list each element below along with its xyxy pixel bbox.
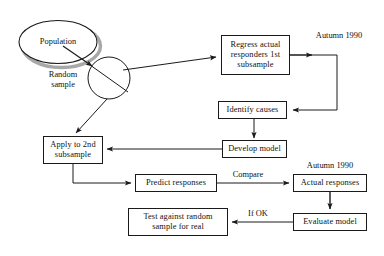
annotation-if-ok: If OK <box>241 209 275 219</box>
annotation-autumn-1990-middle: Autumn 1990 <box>297 161 363 171</box>
node-identify-causes[interactable]: Identify causes <box>218 101 287 119</box>
node-apply-to-2nd-subsample[interactable]: Apply to 2nd subsample <box>43 136 103 164</box>
edge-regress-to-identify <box>290 55 337 110</box>
edge-apply-to-predict <box>73 164 131 183</box>
flowchart-canvas: Population Random sample Regress actual … <box>0 0 384 256</box>
node-actual-responses[interactable]: Actual responses <box>293 174 367 192</box>
edge-circle-to-regress <box>123 57 216 70</box>
node-evaluate-model[interactable]: Evaluate model <box>293 213 367 231</box>
annotation-compare: Compare <box>224 170 272 180</box>
node-regress-actual-responders[interactable]: Regress actual responders 1st subsample <box>221 35 290 75</box>
node-test-against-random-sample[interactable]: Test against random sample for real <box>128 208 228 236</box>
node-develop-model[interactable]: Develop model <box>222 140 287 158</box>
random-sample-label: Random sample <box>32 70 94 91</box>
population-label: Population <box>19 37 97 46</box>
annotation-autumn-1990-top: Autumn 1990 <box>306 31 372 41</box>
edge-circle-to-apply <box>76 99 107 133</box>
node-predict-responses[interactable]: Predict responses <box>135 174 217 192</box>
